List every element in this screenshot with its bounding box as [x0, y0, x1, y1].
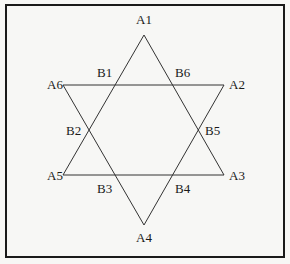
label-b2: B2 — [66, 123, 81, 138]
hexagram-diagram: A1 A2 A3 A4 A5 A6 B1 B6 B2 B5 B3 B4 — [0, 0, 290, 264]
label-b4: B4 — [175, 181, 191, 196]
label-b6: B6 — [175, 65, 191, 80]
label-b5: B5 — [205, 123, 220, 138]
label-a4: A4 — [136, 230, 152, 245]
label-a3: A3 — [229, 168, 245, 183]
label-a6: A6 — [47, 77, 63, 92]
label-a2: A2 — [229, 77, 245, 92]
label-a1: A1 — [136, 12, 152, 27]
label-b1: B1 — [97, 65, 112, 80]
label-a5: A5 — [47, 168, 63, 183]
label-b3: B3 — [97, 181, 112, 196]
frame-border — [6, 5, 284, 257]
